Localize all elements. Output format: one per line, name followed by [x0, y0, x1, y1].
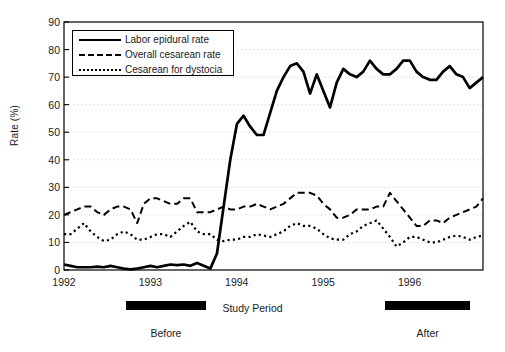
y-tick-label: 80 — [34, 45, 60, 55]
legend-key-solid-line-icon — [79, 39, 121, 41]
y-tick-label: 90 — [34, 17, 60, 27]
legend-item[interactable]: Cesarean for dystocia — [73, 63, 233, 77]
y-tick-label: 70 — [34, 72, 60, 82]
y-tick-label: 30 — [34, 182, 60, 192]
period-bar-before — [126, 301, 205, 310]
x-tick-label: 1995 — [300, 276, 346, 288]
x-tick-label: 1994 — [214, 276, 260, 288]
y-tick-label: 0 — [34, 265, 60, 275]
legend-label: Cesarean for dystocia — [125, 63, 222, 77]
series-line-2 — [64, 193, 483, 226]
series-line-1 — [64, 61, 483, 270]
y-tick-label: 40 — [34, 155, 60, 165]
chart-legend: Labor epidural rateOverall cesarean rate… — [72, 30, 234, 76]
y-axis-title: Rate (%) — [9, 86, 20, 166]
legend-item[interactable]: Overall cesarean rate — [73, 48, 233, 62]
y-axis-tick-labels: 9080706050403020100 — [30, 0, 60, 352]
legend-label: Labor epidural rate — [125, 33, 209, 47]
legend-key-dashed-line-icon — [79, 54, 121, 56]
legend-item[interactable]: Labor epidural rate — [73, 33, 233, 47]
period-bar-after — [385, 301, 470, 310]
y-tick-label: 60 — [34, 100, 60, 110]
x-tick-label: 1996 — [387, 276, 433, 288]
period-label-before: Before — [121, 327, 211, 339]
y-tick-label: 10 — [34, 237, 60, 247]
gridlines — [65, 50, 483, 243]
legend-label: Overall cesarean rate — [125, 48, 221, 62]
x-tick-label: 1993 — [127, 276, 173, 288]
period-label-after: After — [383, 327, 473, 339]
x-tick-label: 1992 — [41, 276, 87, 288]
y-tick-label: 20 — [34, 210, 60, 220]
legend-key-dotted-line-icon — [79, 69, 121, 71]
y-tick-label: 50 — [34, 127, 60, 137]
chart-figure: 9080706050403020100Rate (%)1992199319941… — [0, 0, 505, 352]
